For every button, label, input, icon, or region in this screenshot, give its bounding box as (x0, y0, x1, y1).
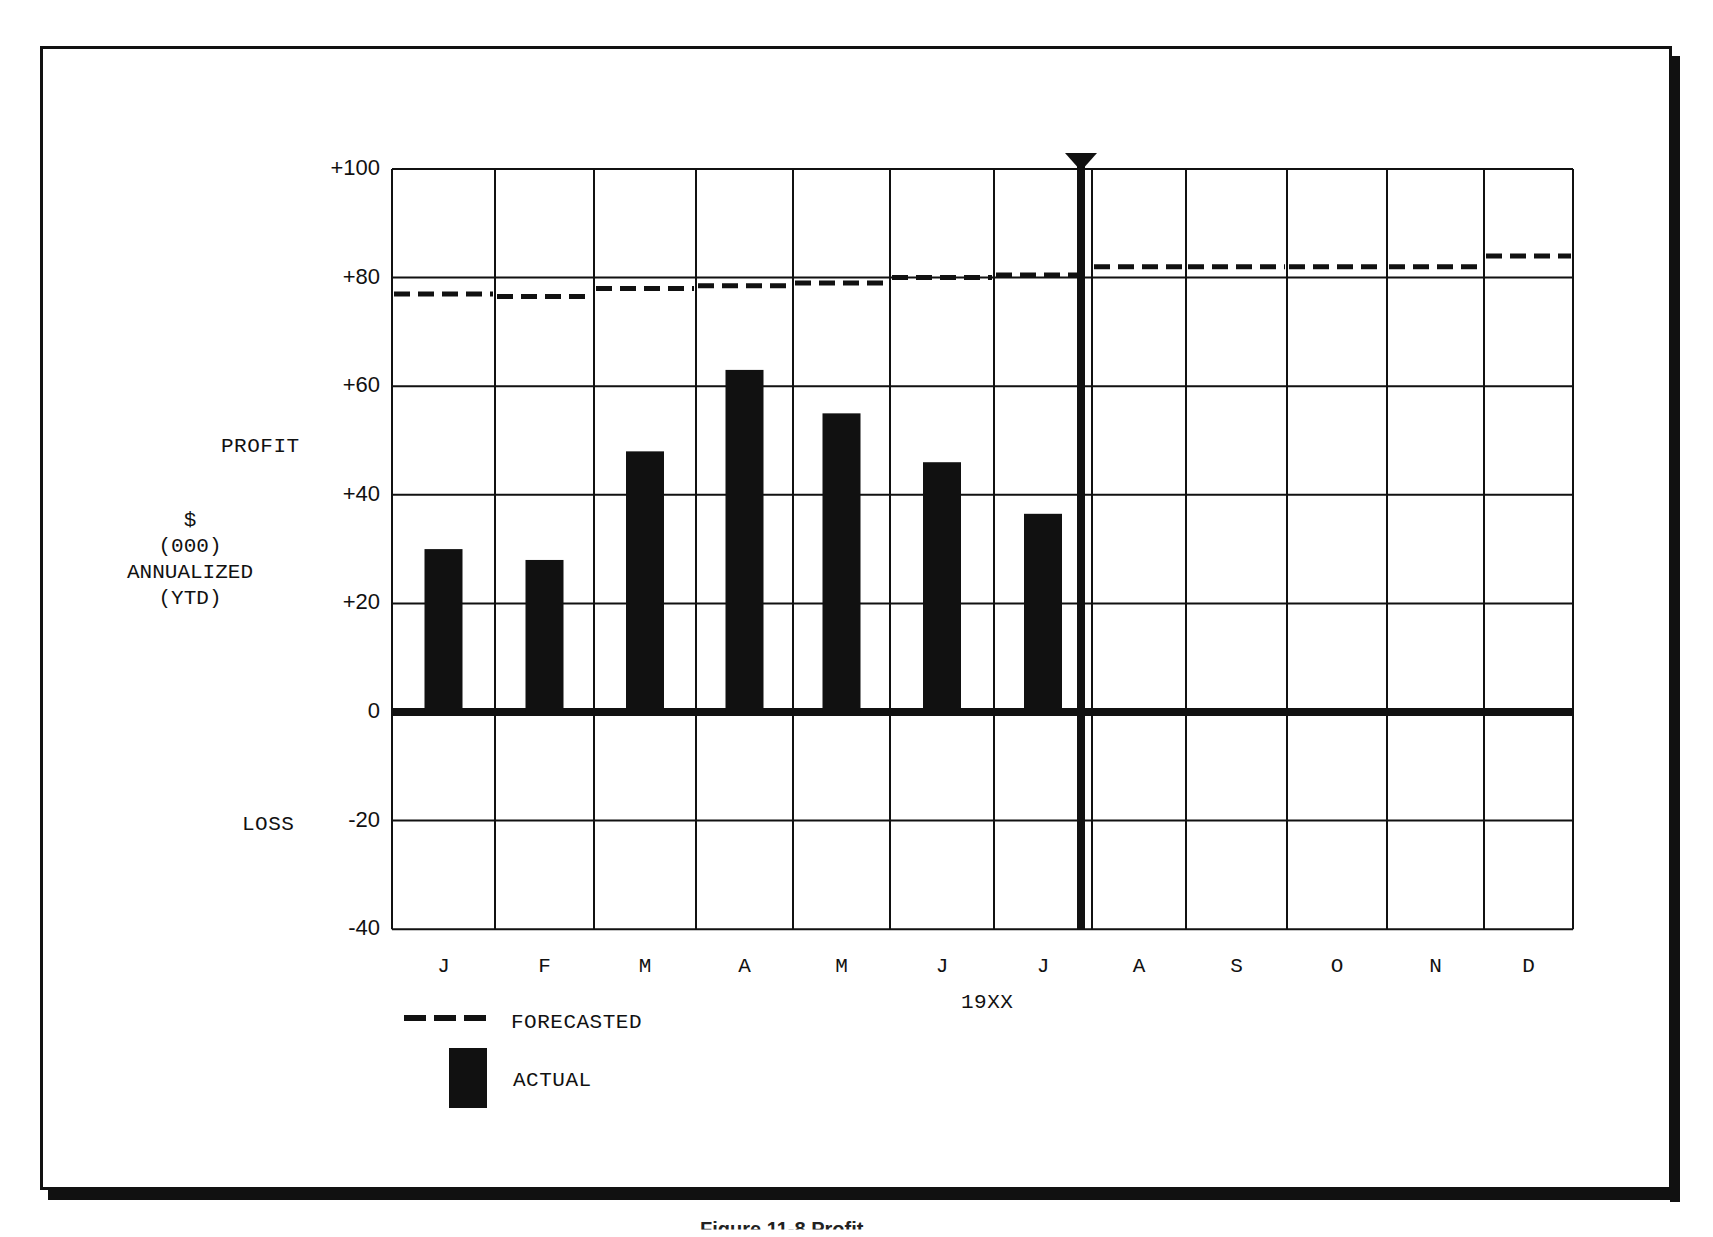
unit-line: ANNUALIZED (110, 560, 270, 586)
grid-lines (392, 169, 1573, 929)
x-tick-label: M (625, 955, 665, 978)
actual-bar (626, 451, 664, 712)
x-tick-label: J (424, 955, 464, 978)
x-tick-label: O (1317, 955, 1357, 978)
x-tick-label: A (1119, 955, 1159, 978)
actual-bar (425, 549, 463, 712)
x-tick-label: F (525, 955, 565, 978)
y-tick-label: 0 (300, 698, 380, 724)
y-tick-label: +60 (300, 372, 380, 398)
y-tick-label: +20 (300, 589, 380, 615)
y-tick-label: +80 (300, 264, 380, 290)
unit-line: $ (110, 508, 270, 534)
chart-plot (0, 0, 1713, 1237)
legend-bar-icon (449, 1048, 487, 1108)
unit-line: (YTD) (110, 586, 270, 612)
x-tick-label: N (1416, 955, 1456, 978)
x-tick-label: A (725, 955, 765, 978)
profit-label: PROFIT (221, 435, 300, 458)
x-tick-label: D (1509, 955, 1549, 978)
y-tick-label: +40 (300, 481, 380, 507)
actual-bars (425, 370, 1063, 712)
loss-label: LOSS (242, 813, 294, 836)
unit-label: $ (000) ANNUALIZED (YTD) (110, 508, 270, 612)
unit-line: (000) (110, 534, 270, 560)
actual-bar (923, 462, 961, 712)
x-axis-year-label: 19XX (961, 991, 1013, 1014)
x-tick-label: S (1217, 955, 1257, 978)
legend-dash-icon (404, 1012, 488, 1024)
actual-bar (726, 370, 764, 712)
x-tick-label: J (1023, 955, 1063, 978)
y-tick-label: -40 (300, 915, 380, 941)
actual-bar (1024, 514, 1062, 712)
actual-bar (823, 413, 861, 712)
legend-forecasted-label: FORECASTED (511, 1011, 642, 1034)
actual-bar (526, 560, 564, 712)
y-tick-label: +100 (300, 155, 380, 181)
forecast-line (394, 256, 1571, 297)
y-tick-label: -20 (300, 807, 380, 833)
x-tick-label: J (922, 955, 962, 978)
legend-actual-label: ACTUAL (513, 1069, 592, 1092)
x-tick-label: M (822, 955, 862, 978)
